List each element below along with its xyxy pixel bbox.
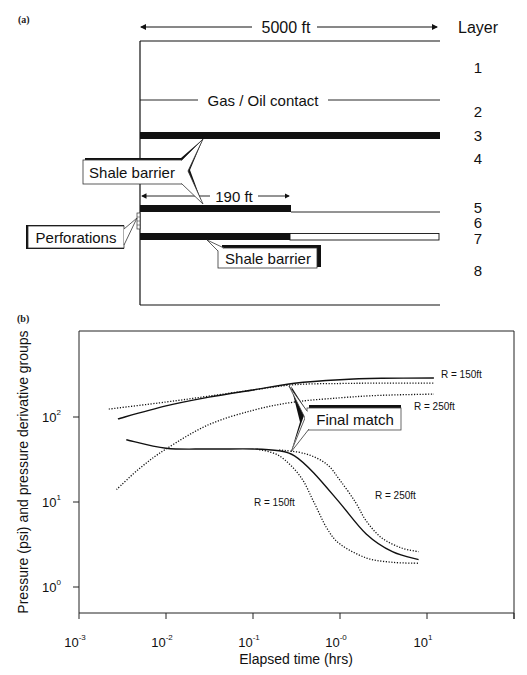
- x-tick-label: 10-2: [151, 633, 173, 650]
- y-tick-label: 101: [42, 493, 61, 510]
- x-tick-label: 10-0: [325, 633, 347, 650]
- pressure-derivative-plot: 10-310-210-110-0101 100101102 Elapsed ti…: [0, 0, 527, 675]
- x-tick-label: 10-1: [238, 633, 260, 650]
- annotation-r250-lower: R = 250ft: [375, 490, 416, 501]
- x-tick-label: 10-3: [64, 633, 86, 650]
- annotation-r150-lower: R = 150ft: [254, 497, 295, 508]
- y-axis-label: Pressure (psi) and pressure derivative g…: [15, 330, 31, 613]
- final-match-label: Final match: [316, 411, 394, 428]
- y-tick-label: 102: [42, 408, 61, 425]
- y-tick-label: 100: [42, 578, 61, 595]
- final-match-callout: Final match: [289, 386, 401, 452]
- annotation-r150-upper: R = 150ft: [441, 369, 482, 380]
- y-ticks: 100101102: [42, 408, 79, 595]
- annotation-r250-upper: R = 250ft: [414, 401, 455, 412]
- x-axis-label: Elapsed time (hrs): [239, 651, 353, 667]
- x-ticks: 10-310-210-110-0101: [64, 613, 514, 650]
- x-tick-label: 101: [414, 633, 433, 650]
